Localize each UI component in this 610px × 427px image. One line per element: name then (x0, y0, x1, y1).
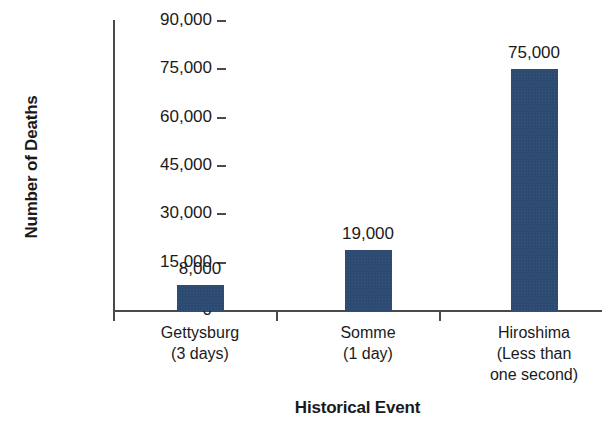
y-axis-tick-mark (217, 68, 226, 70)
bar-value-label: 75,000 (474, 43, 594, 63)
y-axis-tick-mark (217, 165, 226, 167)
y-axis-tick-label: 30,000 (160, 203, 212, 223)
x-axis-tick (276, 311, 278, 321)
bar-value-label: 8,000 (140, 259, 260, 279)
y-axis-tick-mark (217, 117, 226, 119)
x-axis-category-label-line: (1 day) (283, 343, 453, 364)
x-axis-title: Historical Event (113, 398, 602, 418)
x-axis-category-label-line: (3 days) (115, 343, 285, 364)
x-axis-category-label: Gettysburg(3 days) (115, 322, 285, 364)
y-axis-title: Number of Deaths (22, 57, 42, 277)
x-axis-tick (439, 311, 441, 321)
bar-value-label: 19,000 (308, 224, 428, 244)
x-axis-tick (113, 311, 115, 321)
x-axis-category-label-line: (Less than (449, 343, 610, 364)
bar (345, 250, 392, 311)
x-axis-category-label: Somme(1 day) (283, 322, 453, 364)
bar (511, 69, 558, 311)
x-axis-category-label-line: Gettysburg (115, 322, 285, 343)
y-axis-tick-mark (217, 213, 226, 215)
x-axis-category-label: Hiroshima(Less thanone second) (449, 322, 610, 385)
bar (177, 285, 224, 311)
y-axis-tick-label: 90,000 (160, 10, 212, 30)
y-axis-tick-label: 60,000 (160, 107, 212, 127)
x-axis-category-label-line: one second) (449, 364, 610, 385)
x-axis-category-label-line: Hiroshima (449, 322, 610, 343)
bar-chart-figure: Number of Deaths 015,00030,00045,00060,0… (0, 0, 610, 427)
plot-area: 015,00030,00045,00060,00075,00090,0008,0… (113, 21, 600, 311)
y-axis-tick-label: 75,000 (160, 58, 212, 78)
x-axis-category-label-line: Somme (283, 322, 453, 343)
y-axis-tick-mark (217, 20, 226, 22)
y-axis-tick-label: 45,000 (160, 155, 212, 175)
